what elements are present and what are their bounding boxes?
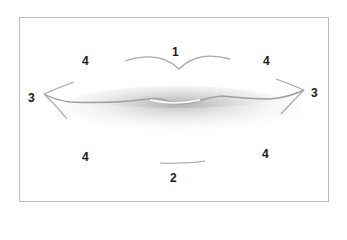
label-4-upper-left: 4 — [82, 55, 89, 67]
label-2-lower-lip: 2 — [170, 172, 177, 184]
label-1-upper-lip: 1 — [172, 46, 179, 58]
lower-lip-line — [160, 161, 205, 163]
lower-lip-shade — [53, 86, 303, 138]
label-4-upper-right: 4 — [263, 55, 270, 67]
label-3-left-corner: 3 — [28, 92, 35, 104]
label-4-lower-left: 4 — [82, 151, 89, 163]
label-3-right-corner: 3 — [311, 87, 318, 99]
label-4-lower-right: 4 — [262, 148, 269, 160]
